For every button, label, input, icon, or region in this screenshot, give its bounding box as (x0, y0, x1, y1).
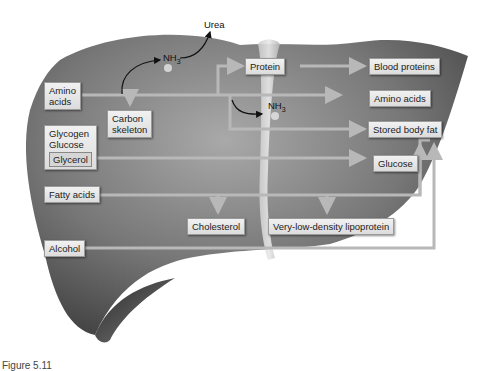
amino-acids-line2: acids (49, 96, 76, 107)
carbon-skeleton-box: Carbon skeleton (107, 110, 152, 138)
glucose-input-label: Glucose (49, 139, 92, 150)
amino-acids-output-box: Amino acids (369, 90, 431, 107)
carbon-skeleton-line1: Carbon (112, 113, 147, 124)
protein-label: Protein (250, 61, 280, 72)
vldl-label: Very-low-density lipoprotein (273, 221, 389, 232)
nh3-label-2: NH3 (268, 100, 286, 113)
cholesterol-label: Cholesterol (192, 221, 240, 232)
urea-label: Urea (204, 19, 225, 30)
glycerol-label: Glycerol (53, 154, 88, 165)
glycogen-glucose-glycerol-box: Glycogen Glucose Glycerol (44, 125, 97, 170)
glycerol-box: Glycerol (49, 152, 92, 167)
alcohol-label: Alcohol (49, 243, 80, 254)
stored-body-fat-box: Stored body fat (368, 121, 442, 138)
cholesterol-box: Cholesterol (187, 218, 245, 235)
amino-acids-line1: Amino (49, 85, 76, 96)
stored-body-fat-label: Stored body fat (373, 124, 437, 135)
nh3-subscript: 3 (177, 58, 181, 65)
fatty-acids-box: Fatty acids (44, 186, 100, 203)
nh3-label-1: NH3 (163, 52, 181, 65)
vldl-box: Very-low-density lipoprotein (268, 218, 394, 235)
carbon-skeleton-line2: skeleton (112, 124, 147, 135)
blood-proteins-box: Blood proteins (369, 58, 440, 75)
amino-acids-input-box: Amino acids (44, 82, 81, 110)
fatty-acids-label: Fatty acids (49, 189, 95, 200)
protein-box: Protein (245, 58, 285, 75)
nh3-subscript: 3 (282, 106, 286, 113)
figure-caption: Figure 5.11 (2, 360, 52, 371)
blood-proteins-label: Blood proteins (374, 61, 435, 72)
glucose-output-label: Glucose (378, 158, 413, 169)
glycogen-label: Glycogen (49, 128, 92, 139)
nh3-base: NH (163, 52, 177, 63)
amino-acids-output-label: Amino acids (374, 93, 426, 104)
glucose-output-box: Glucose (373, 155, 418, 172)
nh3-base: NH (268, 100, 282, 111)
alcohol-box: Alcohol (44, 240, 85, 257)
